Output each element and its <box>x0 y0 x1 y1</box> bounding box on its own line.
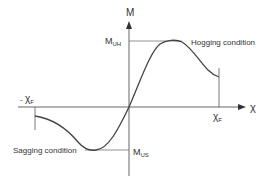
m-us-label: MUS <box>133 147 149 158</box>
y-axis-arrow-icon <box>126 21 132 29</box>
m-uh-label: MUH <box>105 36 121 47</box>
chi-f-positive-label: χF <box>213 111 222 123</box>
moment-curvature-diagram: M χ MUH MUS χF - χF Hogging condition Sa… <box>0 0 272 185</box>
sagging-condition-label: Sagging condition <box>13 146 77 155</box>
x-axis-label: χ <box>250 101 256 113</box>
moment-curvature-curve <box>35 40 219 150</box>
x-axis-arrow-icon <box>238 104 246 110</box>
hogging-condition-label: Hogging condition <box>191 38 255 47</box>
chi-f-negative-label: - χF <box>20 93 34 105</box>
y-axis-label: M <box>126 7 134 18</box>
